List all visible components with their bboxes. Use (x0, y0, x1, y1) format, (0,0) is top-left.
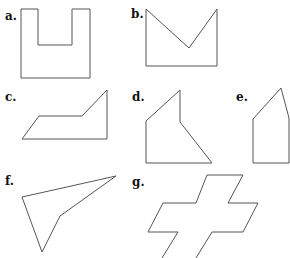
shape-f-arrowhead (22, 176, 116, 252)
shape-g-cross (148, 175, 258, 258)
shape-d-polygon (146, 90, 212, 163)
shape-e-pentagon (253, 88, 289, 163)
shape-c-polygon (22, 90, 107, 139)
shape-a-u-polygon (21, 9, 90, 78)
shape-b-notched-polygon (146, 9, 217, 66)
shapes-canvas (0, 0, 290, 258)
shapes-figure: a. b. c. d. e. f. g. (0, 0, 290, 258)
